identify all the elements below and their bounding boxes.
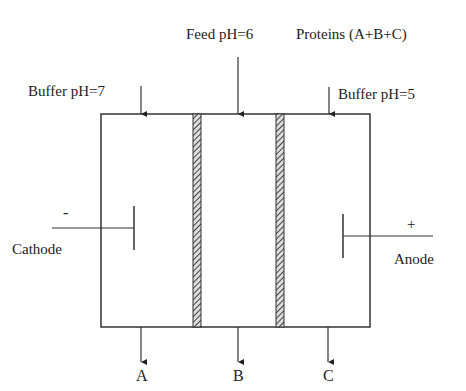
membrane-left bbox=[193, 114, 201, 327]
feed-label: Feed pH=6 bbox=[186, 27, 253, 42]
proteins-label: Proteins (A+B+C) bbox=[296, 27, 407, 42]
outlet-b-label: B bbox=[233, 368, 244, 384]
outlet-a-label: A bbox=[136, 368, 148, 384]
outlet-c-label: C bbox=[323, 368, 334, 384]
electrodialysis-diagram bbox=[0, 0, 466, 391]
anode-label: Anode bbox=[394, 252, 434, 267]
membrane-right bbox=[276, 114, 284, 327]
buffer-left-label: Buffer pH=7 bbox=[28, 84, 105, 99]
cathode-sign: - bbox=[63, 205, 68, 221]
buffer-right-label: Buffer pH=5 bbox=[338, 87, 415, 102]
cell-box bbox=[101, 114, 370, 327]
cathode-label: Cathode bbox=[12, 242, 62, 257]
anode-sign: + bbox=[407, 217, 415, 232]
